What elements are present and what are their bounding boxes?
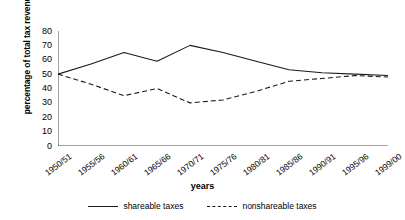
legend-item-shareable-taxes[interactable]: shareable taxes xyxy=(88,201,183,211)
x-tick-label: 1960/61 xyxy=(109,152,139,178)
x-axis-title: years xyxy=(0,181,405,191)
x-tick-label: 1955/56 xyxy=(76,152,106,178)
legend-swatch-dashed-icon xyxy=(207,206,237,207)
x-tick-label: 1980/81 xyxy=(241,152,271,178)
y-tick-label: 60 xyxy=(30,55,52,64)
x-tick-label: 1995/96 xyxy=(340,152,370,178)
axis-group xyxy=(58,31,388,146)
y-tick-label: 80 xyxy=(30,27,52,36)
legend-label: nonshareable taxes xyxy=(242,201,316,211)
legend-swatch-solid-icon xyxy=(88,206,118,207)
y-tick-label: 30 xyxy=(30,98,52,107)
y-tick-label: 10 xyxy=(30,127,52,136)
x-tick-label: 1985/86 xyxy=(274,152,304,178)
y-tick-label: 40 xyxy=(30,84,52,93)
chart-legend: shareable taxesnonshareable taxes xyxy=(0,198,405,214)
series-line-shareable-taxes xyxy=(58,45,388,75)
y-tick-label: 20 xyxy=(30,113,52,122)
legend-label: shareable taxes xyxy=(123,201,183,211)
plot-area xyxy=(58,31,388,146)
data-series-group xyxy=(58,45,388,103)
chart-plot-svg xyxy=(58,31,388,146)
x-tick-label: 1990/91 xyxy=(307,152,337,178)
y-axis-tick-labels: 01020304050607080 xyxy=(30,31,52,146)
y-tick-label: 50 xyxy=(30,70,52,79)
legend-item-nonshareable-taxes[interactable]: nonshareable taxes xyxy=(207,201,316,211)
tax-revenue-line-chart: percentage of total tax revenue 01020304… xyxy=(0,0,405,220)
series-line-nonshareable-taxes xyxy=(58,74,388,103)
y-tick-label: 0 xyxy=(30,142,52,151)
x-tick-label: 1975/76 xyxy=(208,152,238,178)
x-tick-label: 1950/51 xyxy=(43,152,73,178)
y-tick-label: 70 xyxy=(30,41,52,50)
x-tick-label: 1999/00 xyxy=(373,152,403,178)
x-tick-label: 1970/71 xyxy=(175,152,205,178)
x-tick-label: 1965/66 xyxy=(142,152,172,178)
